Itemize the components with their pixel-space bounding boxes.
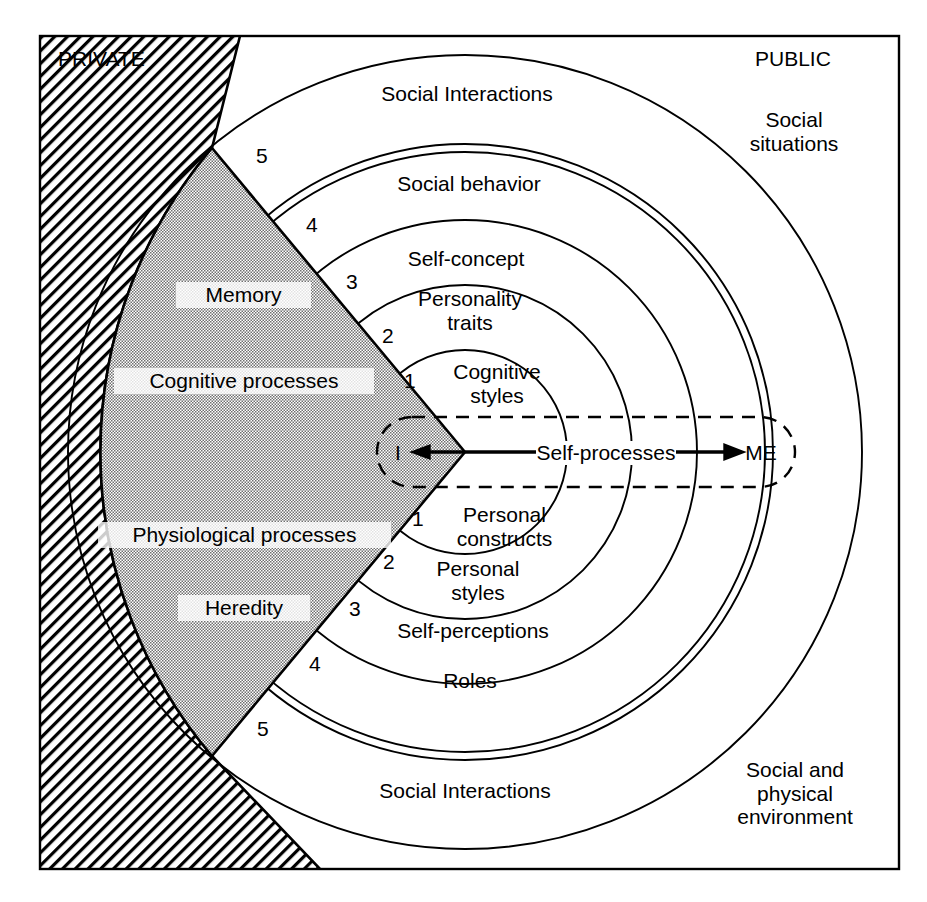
label-private: PRIVATE	[58, 47, 145, 71]
core-label-heredity: Heredity	[178, 595, 310, 621]
ring-number-upper-1: 1	[404, 369, 416, 393]
ring-label-self-concept: Self-concept	[396, 247, 536, 271]
core-label-memory: Memory	[176, 282, 311, 308]
self-processes-label: Self-processes	[536, 441, 676, 465]
ring-label-self-perceptions: Self-perceptions	[385, 619, 561, 643]
core-label-physiological-processes: Physiological processes	[98, 522, 391, 548]
diagram-canvas: PRIVATE PUBLIC Social situations Social …	[0, 0, 927, 902]
ring-number-upper-2: 2	[382, 324, 394, 348]
ring-number-lower-1: 1	[412, 507, 424, 531]
ring-number-lower-3: 3	[349, 597, 361, 621]
ring-number-lower-5: 5	[257, 717, 269, 741]
ring-number-upper-3: 3	[346, 270, 358, 294]
ring-label-roles: Roles	[430, 669, 510, 693]
ring-label-social-interactions-top: Social Interactions	[367, 82, 567, 106]
label-social-physical-environment: Social and physical environment	[710, 758, 880, 829]
ring-label-personal-styles: Personal styles	[418, 557, 538, 604]
ring-number-lower-2: 2	[383, 550, 395, 574]
label-public: PUBLIC	[755, 47, 831, 71]
ring-label-personality-traits: Personality traits	[410, 287, 530, 334]
ring-number-upper-5: 5	[256, 144, 268, 168]
self-axis-i-label: I	[383, 441, 413, 465]
ring-label-personal-constructs: Personal constructs	[442, 503, 567, 550]
self-axis-me-label: ME	[735, 441, 787, 465]
ring-label-social-interactions-bottom: Social Interactions	[365, 779, 565, 803]
ring-label-cognitive-styles: Cognitive styles	[437, 360, 557, 407]
ring-label-social-behavior: Social behavior	[389, 172, 549, 196]
ring-number-upper-4: 4	[306, 213, 318, 237]
ring-number-lower-4: 4	[309, 652, 321, 676]
core-label-cognitive-processes: Cognitive processes	[114, 368, 374, 394]
label-social-situations: Social situations	[735, 108, 853, 155]
